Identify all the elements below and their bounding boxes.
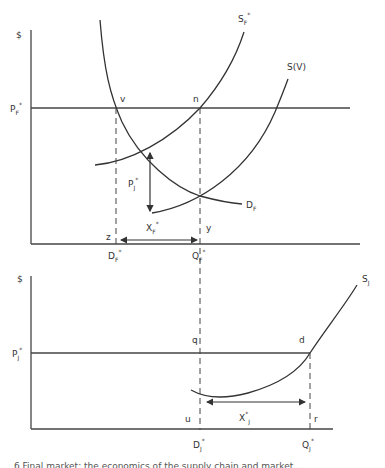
- top-panel: $ PF* DF SF* S(V) v n z y PJ* XF* DF* QF…: [10, 11, 360, 430]
- figure-caption: 6 Final market: the economics of the sup…: [14, 459, 302, 468]
- bottom-panel: $ PJ* SJ q d u r X*J DJ* QJ*: [12, 274, 370, 453]
- quantity-gap-label-xj: X*J: [239, 410, 250, 426]
- gap-label-pj: PJ*: [128, 176, 138, 192]
- tick-label-df-star: DF*: [108, 248, 121, 263]
- supply-curve-sj: [191, 285, 357, 397]
- supply-demand-diagram: $ PF* DF SF* S(V) v n z y PJ* XF* DF* QF…: [0, 0, 385, 468]
- point-v: v: [120, 94, 126, 104]
- top-y-axis-label: $: [16, 30, 22, 40]
- tick-label-qj-star: QJ*: [302, 437, 314, 453]
- demand-label-df: DF: [246, 200, 257, 212]
- price-label-pf: PF*: [10, 101, 22, 116]
- supply-label-sf-star: SF*: [238, 11, 250, 26]
- point-n: n: [193, 94, 199, 104]
- point-u: u: [185, 414, 191, 424]
- price-label-pj: PJ*: [12, 346, 22, 362]
- quantity-gap-label-xf: XF*: [146, 220, 159, 235]
- bottom-y-axis-label: $: [17, 274, 23, 284]
- point-y: y: [206, 223, 212, 233]
- supply-label-sj: SJ: [362, 274, 370, 287]
- point-d: d: [299, 335, 305, 345]
- point-q: q: [192, 335, 198, 345]
- demand-curve-df: [100, 20, 242, 204]
- point-r: r: [314, 414, 318, 424]
- supply-curve-sv: [152, 79, 288, 213]
- tick-label-qf-star: QF*: [192, 248, 206, 263]
- point-z: z: [106, 232, 111, 242]
- tick-label-dj-star: DJ*: [193, 437, 205, 453]
- supply-curve-sf-star: [95, 32, 244, 165]
- supply-label-sv: S(V): [287, 62, 306, 72]
